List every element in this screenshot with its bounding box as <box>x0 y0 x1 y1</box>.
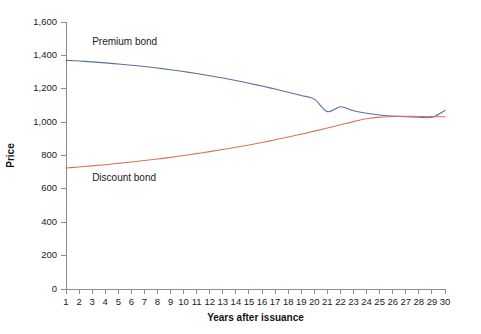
x-tick-label: 18 <box>283 296 294 307</box>
series-label-premium-bond: Premium bond <box>92 36 157 47</box>
x-tick-label: 17 <box>270 296 281 307</box>
y-tick-label: 200 <box>41 249 57 260</box>
y-tick-label: 800 <box>41 149 57 160</box>
x-tick-label: 30 <box>440 296 451 307</box>
x-tick-label: 6 <box>129 296 134 307</box>
x-tick-label: 20 <box>309 296 320 307</box>
x-tick-label: 14 <box>231 296 242 307</box>
x-tick-label: 8 <box>155 296 160 307</box>
x-tick-label: 11 <box>192 296 202 307</box>
x-tick-label: 13 <box>218 296 229 307</box>
x-tick-label: 25 <box>374 296 385 307</box>
x-tick-label: 9 <box>168 296 173 307</box>
y-tick-label: 0 <box>52 283 57 294</box>
x-tick-label: 10 <box>178 296 189 307</box>
x-tick-label: 29 <box>427 296 438 307</box>
x-tick-label: 16 <box>257 296 268 307</box>
x-tick-label: 28 <box>414 296 425 307</box>
y-tick-label: 1,600 <box>33 16 57 27</box>
chart-canvas: 02004006008001,0001,2001,4001,600 123456… <box>0 0 481 334</box>
y-axis-title: Price <box>5 143 16 168</box>
x-tick-label: 3 <box>89 296 94 307</box>
x-tick-label: 21 <box>322 296 333 307</box>
y-tick-label: 600 <box>41 182 57 193</box>
x-tick-label: 19 <box>296 296 307 307</box>
x-tick-label: 4 <box>103 296 108 307</box>
x-tick-label: 2 <box>76 296 81 307</box>
bond-price-chart: 02004006008001,0001,2001,4001,600 123456… <box>0 0 481 334</box>
y-tick-label: 1,000 <box>33 116 57 127</box>
y-axis-group: 02004006008001,0001,2001,4001,600 <box>33 16 66 294</box>
y-tick-label: 1,200 <box>33 82 57 93</box>
x-tick-label: 12 <box>204 296 215 307</box>
series-label-discount-bond: Discount bond <box>92 172 156 183</box>
x-tick-label: 23 <box>348 296 359 307</box>
series-line-premium-bond <box>66 60 445 117</box>
x-tick-label: 5 <box>116 296 121 307</box>
x-tick-label: 1 <box>63 296 68 307</box>
y-tick-label: 400 <box>41 216 57 227</box>
x-tick-label: 24 <box>361 296 372 307</box>
x-tick-label: 15 <box>244 296 255 307</box>
series-line-discount-bond <box>66 116 445 168</box>
x-axis-group: 1234567891011121314151617181920212223242… <box>63 289 450 307</box>
x-tick-label: 27 <box>401 296 412 307</box>
series-group <box>66 60 445 168</box>
x-tick-label: 26 <box>387 296 398 307</box>
x-tick-label: 7 <box>142 296 147 307</box>
x-tick-label: 22 <box>335 296 346 307</box>
y-tick-label: 1,400 <box>33 49 57 60</box>
x-axis-title: Years after issuance <box>207 312 304 323</box>
